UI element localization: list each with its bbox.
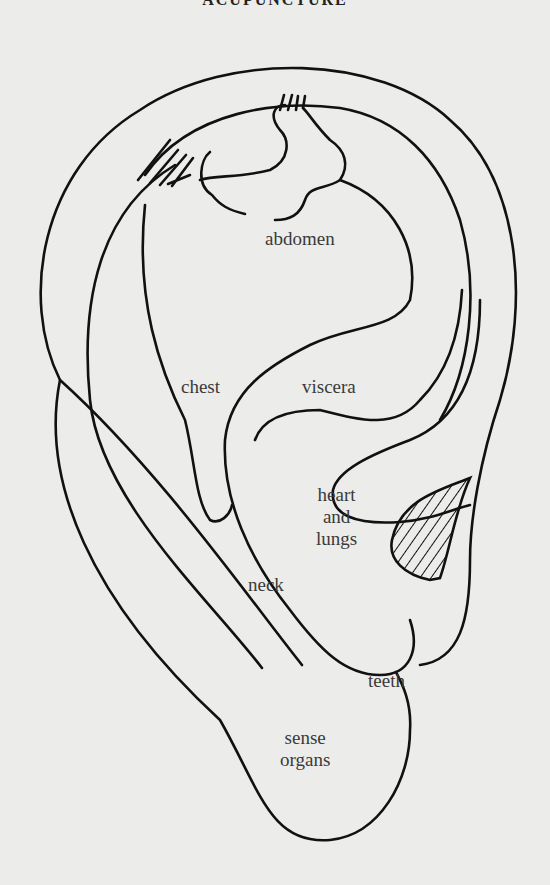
lobe-outline [56,380,410,840]
label-sense-organs: sense organs [280,727,330,771]
left-hand-line [138,140,193,186]
concha-line [255,290,462,440]
chest-leg-line [143,205,232,521]
label-viscera: viscera [302,376,356,398]
label-neck: neck [248,574,284,596]
label-chest: chest [181,376,220,398]
ear-diagram [0,0,550,885]
antihelix-outer-line [88,165,262,668]
inner-helix-arc [145,106,470,420]
label-heart-and-lungs: heart and lungs [316,484,357,550]
heart-lungs-hatched-region [391,478,470,580]
label-abdomen: abdomen [265,228,335,250]
label-teeth: teeth [368,670,405,692]
top-hand-line [280,95,305,110]
top-figure-line-2 [200,105,287,180]
top-figure-line-3 [275,108,345,220]
top-figure-line [201,152,245,214]
